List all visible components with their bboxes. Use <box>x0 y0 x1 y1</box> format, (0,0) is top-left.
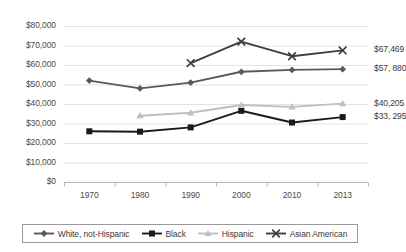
series-line-1 <box>89 111 342 132</box>
legend-marker-x-icon <box>265 228 287 239</box>
data-point-marker-square <box>137 129 143 135</box>
series-line-3 <box>191 42 343 64</box>
data-point-marker-diamond <box>40 230 47 237</box>
data-point-marker-square <box>340 114 346 120</box>
legend-marker-square-icon <box>141 228 163 239</box>
data-point-marker-diamond <box>339 66 346 73</box>
legend-label: White, not-Hispanic <box>58 229 130 239</box>
series-line-0 <box>89 69 342 88</box>
legend-label: Hispanic <box>222 229 254 239</box>
data-point-marker-diamond <box>137 85 144 92</box>
legend-item-2[interactable]: Hispanic <box>197 228 254 239</box>
legend-item-1[interactable]: Black <box>141 228 186 239</box>
data-point-marker-diamond <box>238 68 245 75</box>
data-point-marker-square <box>188 124 194 130</box>
legend-label: Asian American <box>290 229 348 239</box>
data-point-marker-diamond <box>86 77 93 84</box>
data-point-marker-diamond <box>289 66 296 73</box>
legend-marker-diamond-icon <box>33 228 55 239</box>
chart-legend: White, not-HispanicBlackHispanicAsian Am… <box>22 224 358 243</box>
legend-label: Black <box>166 229 186 239</box>
legend-item-3[interactable]: Asian American <box>265 228 348 239</box>
data-point-marker-square <box>238 108 244 114</box>
data-point-marker-square <box>289 120 295 126</box>
data-point-marker-square <box>86 128 92 134</box>
data-point-marker-square <box>149 231 155 237</box>
legend-marker-triangle-icon <box>197 228 219 239</box>
legend-item-0[interactable]: White, not-Hispanic <box>33 228 130 239</box>
